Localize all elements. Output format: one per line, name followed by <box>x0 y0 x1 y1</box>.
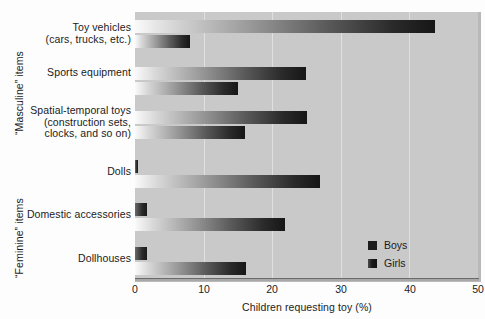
category-label-line: Toy vehicles <box>0 22 131 34</box>
bar-sports-equipment-boys <box>135 67 306 80</box>
bar-fill <box>135 160 138 173</box>
bar-fill <box>135 67 306 80</box>
legend-swatch-girls-icon <box>368 259 377 268</box>
bar-spatial-temporal-toys-girls <box>135 126 245 139</box>
bar-domestic-accessories-girls <box>135 218 285 231</box>
bar-dollhouses-boys <box>135 247 147 260</box>
plot-area <box>135 12 478 278</box>
bar-chart: Toy vehicles (cars, trucks, etc.) Sports… <box>0 0 485 319</box>
legend-item-girls: Girls <box>368 258 407 269</box>
bar-fill <box>135 218 285 231</box>
legend: Boys Girls <box>368 240 407 276</box>
bar-toy-vehicles-boys <box>135 20 435 33</box>
bar-fill <box>135 247 147 260</box>
bar-fill <box>135 262 246 275</box>
x-axis-line <box>135 278 479 279</box>
x-tick-20: 20 <box>257 283 287 295</box>
bar-fill <box>135 203 147 216</box>
legend-item-boys: Boys <box>368 240 407 251</box>
bar-dollhouses-girls <box>135 262 246 275</box>
gridline-40 <box>409 12 410 278</box>
bar-dolls-girls <box>135 175 320 188</box>
group-label-feminine: “Feminine” items <box>13 198 25 278</box>
bar-dolls-boys <box>135 160 138 173</box>
x-tick-10: 10 <box>189 283 219 295</box>
bar-fill <box>135 82 238 95</box>
legend-label-girls: Girls <box>384 258 406 269</box>
group-label-masculine: “Masculine” items <box>13 51 25 135</box>
legend-label-boys: Boys <box>384 240 407 251</box>
x-tick-50: 50 <box>463 283 485 295</box>
x-axis-title: Children requesting toy (%) <box>135 301 479 313</box>
gridline-30 <box>341 12 342 278</box>
category-label-line: (cars, trucks, etc.) <box>0 34 131 46</box>
category-label-toy-vehicles: Toy vehicles (cars, trucks, etc.) <box>0 22 131 45</box>
bar-fill <box>135 35 190 48</box>
category-label-line: Dolls <box>0 166 131 178</box>
x-axis-shadow <box>135 279 479 281</box>
x-tick-0: 0 <box>120 283 150 295</box>
bar-fill <box>135 175 320 188</box>
gridline-10 <box>204 12 205 278</box>
bar-spatial-temporal-toys-boys <box>135 111 307 124</box>
bar-sports-equipment-girls <box>135 82 238 95</box>
category-label-dolls: Dolls <box>0 166 131 178</box>
x-tick-40: 40 <box>395 283 425 295</box>
bar-fill <box>135 111 307 124</box>
x-tick-30: 30 <box>326 283 356 295</box>
gridline-20 <box>272 12 273 278</box>
bar-toy-vehicles-girls <box>135 35 190 48</box>
bar-fill <box>135 126 245 139</box>
bar-fill <box>135 20 435 33</box>
legend-swatch-boys-icon <box>368 241 377 250</box>
bar-domestic-accessories-boys <box>135 203 147 216</box>
